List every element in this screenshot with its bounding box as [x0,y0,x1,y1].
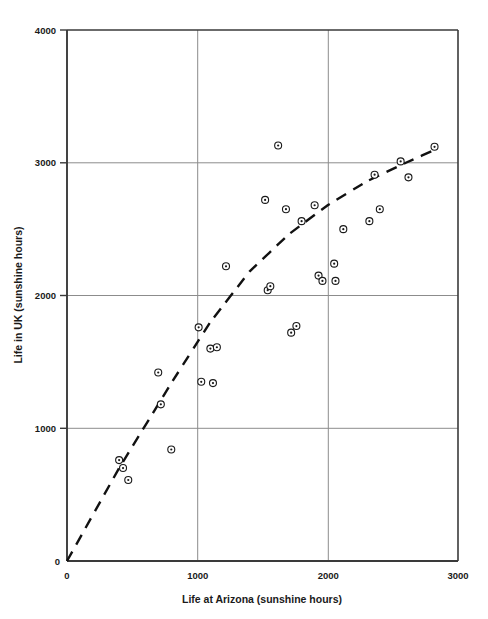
data-point-center [314,204,316,206]
data-point [376,206,383,213]
data-point-center [290,332,292,334]
page-caption-cropped [0,605,488,619]
data-point [332,277,339,284]
y-axis-tick-labels: 4000 3000 2000 1000 0 [35,25,60,567]
data-point-center [157,371,159,373]
data-point [298,218,305,225]
chart-canvas: 4000 3000 2000 1000 0 0 1000 2000 3000 L… [0,0,488,619]
data-point-center [400,160,402,162]
data-point-center [216,346,218,348]
data-point-center [209,348,211,350]
x-tick-label-0: 0 [64,570,69,581]
data-point [116,457,123,464]
data-point [319,277,326,284]
data-point [207,345,214,352]
data-point-center [368,220,370,222]
data-point [213,344,220,351]
data-point-center [269,285,271,287]
data-point-center [122,467,124,469]
x-tick-label-1000: 1000 [187,570,208,581]
data-point-center [433,146,435,148]
data-point-center [333,263,335,265]
data-point-center [170,448,172,450]
data-point [157,401,164,408]
data-point-center [334,280,336,282]
scatter-plot-figure: 4000 3000 2000 1000 0 0 1000 2000 3000 L… [0,0,488,619]
data-point [267,283,274,290]
data-point [431,143,438,150]
data-point-center [225,265,227,267]
data-point [405,174,412,181]
data-point [371,171,378,178]
data-point-center [277,144,279,146]
data-point-center [160,403,162,405]
data-point [195,324,202,331]
data-point [366,218,373,225]
data-point [155,369,162,376]
data-point-center [118,459,120,461]
y-tick-label-4000: 4000 [35,25,56,36]
data-point [331,260,338,267]
data-point [288,329,295,336]
data-point [340,226,347,233]
data-point-center [321,280,323,282]
y-axis-title: Life in UK (sunshine hours) [12,226,24,363]
data-point [397,158,404,165]
data-point-center [212,382,214,384]
data-point-center [198,326,200,328]
x-axis-title: Life at Arizona (sunshine hours) [182,593,342,605]
data-point-center [373,174,375,176]
data-point-center [407,176,409,178]
data-point-center [301,220,303,222]
data-point [209,380,216,387]
x-tick-label-3000: 3000 [447,570,468,581]
data-point [198,378,205,385]
data-point-center [342,228,344,230]
data-point-center [264,199,266,201]
data-point-center [200,381,202,383]
data-point-center [295,325,297,327]
data-point [223,263,230,270]
data-point-center [285,208,287,210]
data-point [120,465,127,472]
data-point [275,142,282,149]
y-tick-label-0: 0 [55,556,60,567]
y-tick-label-3000: 3000 [35,157,56,168]
data-point [262,196,269,203]
y-tick-label-1000: 1000 [35,423,56,434]
y-axis-ticks [60,30,67,428]
x-tick-label-2000: 2000 [318,570,339,581]
data-point [311,202,318,209]
data-point-center [317,274,319,276]
data-point [168,446,175,453]
x-axis-tick-labels: 0 1000 2000 3000 [64,570,468,581]
data-point [282,206,289,213]
y-tick-label-2000: 2000 [35,290,56,301]
data-point-center [379,208,381,210]
data-point [125,477,132,484]
data-point [293,323,300,330]
data-point-center [127,479,129,481]
